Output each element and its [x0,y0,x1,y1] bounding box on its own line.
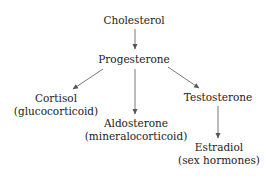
node-progesterone: Progesterone [98,53,169,66]
node-label: Cortisol [14,92,98,105]
node-aldosterone: Aldosterone (mineralocorticoid) [85,117,188,143]
node-testosterone: Testosterone [184,91,252,104]
node-label: Testosterone [184,91,252,104]
node-sublabel: (sex hormones) [178,154,260,167]
node-sublabel: (mineralocorticoid) [85,130,188,143]
node-label: Aldosterone [85,117,188,130]
node-label: Cholesterol [103,14,164,27]
node-cholesterol: Cholesterol [103,14,164,27]
node-estradiol: Estradiol (sex hormones) [178,141,260,167]
arrow-progesterone-to-testosterone [168,67,199,88]
node-label: Estradiol [178,141,260,154]
node-cortisol: Cortisol (glucocorticoid) [14,92,98,118]
steroid-pathway-diagram: Cholesterol Progesterone Cortisol (gluco… [0,0,266,179]
node-label: Progesterone [98,53,169,66]
arrow-progesterone-to-cortisol [73,69,103,89]
